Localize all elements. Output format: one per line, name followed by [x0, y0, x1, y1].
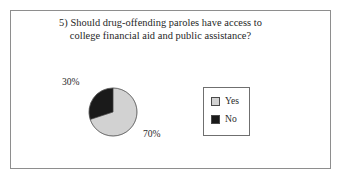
pie-chart	[88, 87, 138, 137]
chart-title-line-2: college financial aid and public assista…	[28, 29, 293, 42]
figure-container: 5) Should drug-offending paroles have ac…	[0, 0, 342, 181]
legend-label-no: No	[225, 114, 237, 124]
legend-item-no: No	[211, 114, 237, 124]
chart-title: 5) Should drug-offending paroles have ac…	[28, 16, 293, 43]
pie-label-yes-percent: 70%	[143, 128, 161, 139]
pie-label-no-percent: 30%	[62, 76, 80, 87]
pie-chart-svg	[88, 87, 138, 137]
chart-legend: Yes No	[203, 87, 250, 136]
chart-title-line-1: 5) Should drug-offending paroles have ac…	[28, 16, 293, 29]
legend-swatch-no	[211, 115, 220, 124]
legend-label-yes: Yes	[225, 96, 239, 106]
legend-swatch-yes	[211, 97, 220, 106]
legend-item-yes: Yes	[211, 96, 239, 106]
